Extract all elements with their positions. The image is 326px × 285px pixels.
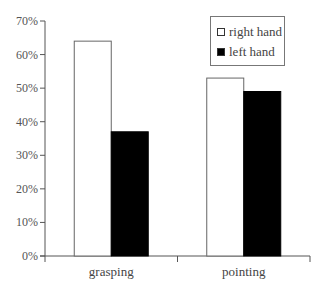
y-tick-label: 50%	[16, 81, 38, 95]
y-tick-label: 70%	[16, 14, 38, 28]
legend-label: left hand	[229, 44, 275, 60]
y-tick-label: 20%	[16, 182, 38, 196]
bar-pointing-right-hand	[207, 78, 244, 256]
legend-item-right-hand: right hand	[217, 24, 282, 40]
y-tick-label: 60%	[16, 48, 38, 62]
bar-grasping-right-hand	[74, 41, 111, 256]
bar-pointing-left-hand	[244, 92, 281, 257]
legend-swatch-white-icon	[217, 28, 225, 36]
y-tick-label: 10%	[16, 215, 38, 229]
bars	[74, 41, 281, 256]
legend: right hand left hand	[210, 16, 285, 66]
y-tick-label: 30%	[16, 148, 38, 162]
legend-swatch-black-icon	[217, 48, 225, 56]
legend-item-left-hand: left hand	[217, 44, 275, 60]
legend-label: right hand	[229, 24, 282, 40]
x-category-label: grasping	[89, 264, 134, 279]
y-tick-label: 40%	[16, 115, 38, 129]
x-category-label: pointing	[222, 264, 266, 279]
y-tick-label: 0%	[22, 249, 38, 263]
bar-grasping-left-hand	[111, 132, 148, 256]
